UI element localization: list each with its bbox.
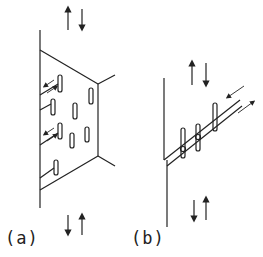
panel-label-a: (a) [5, 228, 39, 248]
panel-label-b: (b) [131, 228, 165, 248]
panel-b-flow-arrows [228, 86, 253, 113]
panel-b-vertical-arrows [192, 63, 206, 220]
panel-a-vertical-arrows [68, 9, 82, 235]
panel-b-structure [164, 78, 242, 227]
panel-a-pins [51, 75, 93, 175]
diagram-canvas [0, 0, 263, 257]
panel-a-structure [40, 30, 115, 208]
